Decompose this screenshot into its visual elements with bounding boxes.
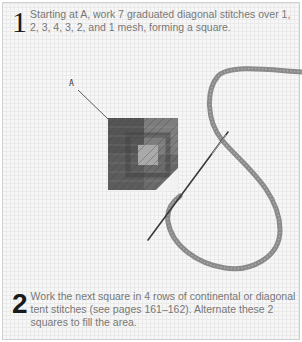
step-text: Starting at A, work 7 graduated diagonal… [30,8,290,33]
callout-line [78,90,108,119]
callout-label-a: A [69,79,74,88]
step-number: 1 [12,9,27,35]
stitched-square [108,118,178,190]
step-2-instruction: 2 Work the next square in 4 rows of cont… [12,290,297,329]
step-number: 2 [12,291,28,317]
step-1-instruction: 1 Starting at A, work 7 graduated diagon… [12,8,292,35]
yarn-strand [168,69,302,269]
step-text: Work the next square in 4 rows of contin… [31,290,296,328]
